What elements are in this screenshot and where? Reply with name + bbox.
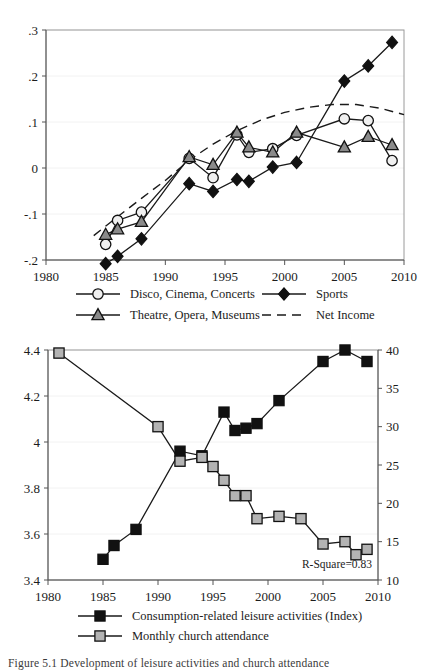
data-point-marker [267, 161, 278, 173]
legend-label: Consumption-related leisure activities (… [132, 609, 362, 623]
series-line [103, 350, 367, 559]
chart-leisure-activities-net-income: -.2-.10.1.2.3198019851990199520002005201… [0, 14, 430, 334]
data-point-marker [175, 456, 185, 466]
data-point-marker [340, 537, 350, 547]
data-point-marker [318, 539, 328, 549]
x-tick-label: 2000 [255, 589, 281, 604]
y-tick-label-right: 10 [386, 573, 399, 588]
data-point-marker [230, 425, 240, 435]
data-point-marker [100, 239, 110, 249]
data-point-marker [243, 175, 254, 187]
x-tick-label: 1985 [93, 269, 119, 284]
data-point-marker [231, 173, 242, 185]
series-line [59, 353, 367, 555]
x-tick-label: 1990 [145, 589, 171, 604]
data-point-marker [54, 348, 64, 358]
data-point-marker [318, 356, 328, 366]
data-point-marker [208, 461, 218, 471]
data-point-marker [362, 544, 372, 554]
x-tick-label: 2005 [331, 269, 357, 284]
x-tick-label: 1980 [35, 589, 61, 604]
y-tick-label-left: 3.4 [24, 573, 41, 588]
data-point-marker [98, 554, 108, 564]
data-point-marker [219, 407, 229, 417]
data-point-marker [208, 172, 218, 182]
x-tick-label: 2010 [365, 589, 391, 604]
data-point-marker [274, 396, 284, 406]
y-tick-label: -.1 [24, 207, 38, 222]
data-point-marker [100, 228, 112, 239]
y-tick-label-left: 3.8 [24, 481, 40, 496]
legend-label: Monthly church attendance [132, 629, 269, 643]
data-point-marker [274, 511, 284, 521]
data-point-marker [340, 345, 350, 355]
data-point-marker [93, 289, 103, 299]
y-tick-label: 0 [32, 161, 39, 176]
x-tick-label: 1995 [212, 269, 238, 284]
x-tick-label: 2005 [310, 589, 336, 604]
figure-caption: Figure 5.1 Development of leisure activi… [8, 656, 422, 670]
data-point-marker [219, 475, 229, 485]
data-point-marker [153, 422, 163, 432]
y-tick-label: .3 [28, 23, 38, 38]
data-point-marker [252, 514, 262, 524]
y-tick-label-left: 4.2 [24, 389, 40, 404]
data-point-marker [241, 423, 251, 433]
y-tick-label-right: 15 [386, 534, 399, 549]
clipped-header-text [0, 0, 430, 3]
y-tick-label: .2 [28, 69, 38, 84]
legend-label: Disco, Cinema, Concerts [130, 287, 255, 301]
data-point-marker [279, 288, 290, 300]
data-point-marker [92, 309, 104, 320]
r-square-annotation: R-Square=0.83 [302, 558, 372, 571]
y-tick-label-right: 20 [386, 496, 399, 511]
x-tick-label: 1995 [200, 589, 226, 604]
plot-area-top: -.2-.10.1.2.3198019851990199520002005201… [24, 23, 417, 285]
y-tick-label: .1 [28, 115, 38, 130]
data-point-marker [131, 524, 141, 534]
legend-top: Disco, Cinema, ConcertsSportsTheatre, Op… [76, 287, 375, 322]
data-point-marker [339, 114, 349, 124]
x-tick-label: 1980 [33, 269, 59, 284]
data-point-marker [339, 75, 350, 87]
y-tick-label-left: 3.6 [24, 527, 41, 542]
chart-consumption-church-attendance: 3.43.63.844.24.4101520253035401980198519… [0, 336, 430, 656]
x-tick-label: 2010 [391, 269, 417, 284]
plot-area-bottom: 3.43.63.844.24.4101520253035401980198519… [24, 343, 399, 605]
y-tick-label-right: 30 [386, 419, 399, 434]
y-tick-label-left: 4.4 [24, 343, 41, 358]
data-point-marker [230, 491, 240, 501]
data-point-marker [112, 250, 123, 262]
data-point-marker [252, 419, 262, 429]
x-tick-label: 2000 [272, 269, 298, 284]
data-point-marker [363, 115, 373, 125]
data-point-marker [197, 452, 207, 462]
y-tick-label: -.2 [24, 253, 38, 268]
data-point-marker [362, 130, 374, 141]
x-tick-label: 1985 [90, 589, 116, 604]
data-point-marker [109, 540, 119, 550]
data-point-marker [175, 446, 185, 456]
figure-page: -.2-.10.1.2.3198019851990199520002005201… [0, 0, 430, 672]
data-point-marker [387, 155, 397, 165]
legend-label: Theatre, Opera, Museums [130, 308, 260, 322]
data-point-marker [291, 156, 302, 168]
y-tick-label-right: 25 [386, 458, 399, 473]
data-point-marker [241, 491, 251, 501]
data-point-marker [208, 185, 219, 197]
y-tick-label-right: 40 [386, 343, 399, 358]
legend-label: Net Income [316, 308, 375, 322]
data-point-marker [95, 611, 105, 621]
legend-bottom: Consumption-related leisure activities (… [78, 609, 362, 643]
data-point-marker [95, 631, 105, 641]
data-point-marker [296, 514, 306, 524]
legend-label: Sports [316, 287, 348, 301]
x-tick-label: 1990 [152, 269, 178, 284]
data-point-marker [362, 356, 372, 366]
y-tick-label-left: 4 [34, 435, 41, 450]
y-tick-label-right: 35 [386, 381, 399, 396]
